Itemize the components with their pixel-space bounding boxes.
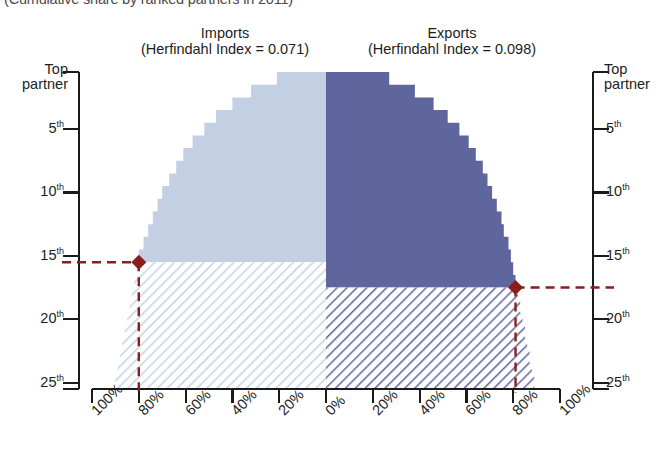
chart-plot-svg xyxy=(0,0,672,450)
imports-hatched-region xyxy=(92,262,326,389)
chart-container: (Cumulative share by ranked partners in … xyxy=(0,0,672,450)
imports-solid-region xyxy=(92,72,326,262)
exports-hatched-region xyxy=(326,288,560,389)
plot-areas xyxy=(92,72,560,389)
exports-solid-region xyxy=(326,72,560,288)
